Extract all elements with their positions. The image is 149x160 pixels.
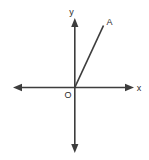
y-axis-label: y: [69, 7, 74, 17]
coordinate-plane-svg: y x O A: [0, 0, 149, 160]
point-a-label: A: [106, 17, 112, 27]
origin-label: O: [64, 90, 71, 100]
coordinate-plane-figure: y x O A: [0, 0, 149, 160]
x-axis-label: x: [137, 83, 142, 93]
